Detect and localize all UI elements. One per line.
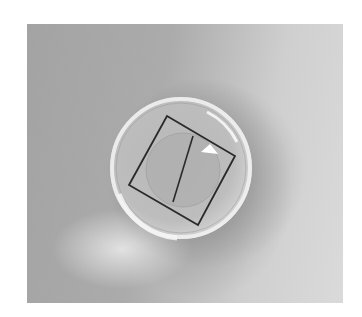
glass-dome-scene (27, 24, 343, 303)
photograph (27, 24, 343, 303)
